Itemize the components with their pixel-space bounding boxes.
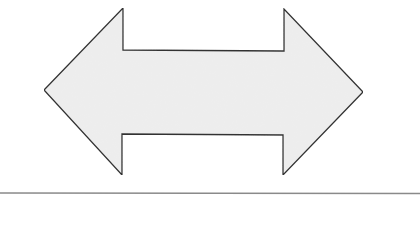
double-arrow-icon <box>44 8 363 175</box>
divider-line <box>0 193 420 194</box>
diagram-canvas <box>0 0 420 249</box>
